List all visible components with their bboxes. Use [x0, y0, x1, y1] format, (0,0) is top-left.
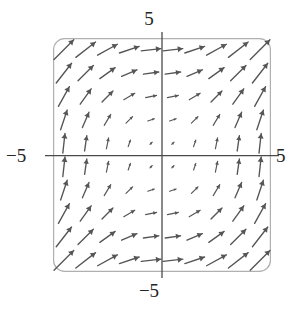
field-arrow [84, 136, 89, 151]
field-arrow [100, 231, 115, 242]
field-arrow [185, 256, 205, 264]
field-arrow [61, 133, 67, 153]
field-arrow [250, 40, 270, 60]
field-arrow [146, 211, 157, 215]
field-arrow [128, 163, 131, 170]
field-arrow [61, 180, 69, 200]
field-arrow-head [156, 257, 161, 263]
field-arrow [194, 163, 197, 170]
axis-label-bottom: −5 [0, 281, 298, 300]
field-arrow-head [86, 89, 91, 95]
field-arrow [215, 161, 219, 172]
field-arrow [102, 91, 113, 102]
field-arrow [163, 46, 183, 52]
field-arrow [231, 65, 246, 80]
field-arrow [54, 40, 74, 60]
field-arrow [187, 233, 202, 240]
field-arrow [56, 63, 71, 83]
field-arrow [76, 253, 96, 268]
field-arrow [207, 44, 227, 55]
field-arrow [194, 140, 197, 147]
field-arrow [143, 234, 158, 239]
field-arrow [187, 69, 202, 76]
field-arrow [228, 253, 248, 268]
field-arrow [122, 233, 137, 240]
vector-field-figure: 5 −5 −5 5 [0, 0, 298, 311]
field-arrow [257, 110, 265, 130]
field-arrow [233, 89, 244, 104]
field-arrow [104, 185, 111, 196]
field-arrow [172, 142, 174, 144]
field-arrow [82, 112, 89, 127]
field-arrow [80, 89, 91, 104]
field-arrow [82, 182, 89, 197]
field-arrow [148, 188, 155, 191]
field-arrow [106, 138, 110, 149]
field-arrow-head [238, 206, 243, 212]
field-arrow [189, 93, 200, 100]
field-arrow-head [177, 257, 182, 263]
field-arrow-head [61, 157, 67, 162]
field-arrow [148, 118, 155, 121]
field-arrow [167, 94, 178, 98]
field-arrow [209, 231, 224, 242]
field-arrow [165, 70, 180, 75]
field-arrow [61, 157, 67, 177]
field-arrow [119, 256, 139, 264]
field-arrow [235, 112, 242, 127]
field-arrow [146, 94, 157, 98]
field-arrow [257, 180, 265, 200]
field-arrow [255, 87, 266, 107]
field-arrow [100, 68, 115, 79]
field-arrow [54, 250, 74, 270]
field-arrow [163, 257, 183, 263]
field-arrow-head [61, 133, 67, 138]
field-arrow [211, 91, 222, 102]
field-arrow [143, 70, 158, 75]
field-arrow [78, 229, 93, 244]
field-arrow [84, 159, 89, 174]
field-arrow-head [109, 231, 115, 236]
field-arrow [170, 118, 177, 121]
field-arrow [128, 140, 131, 147]
field-arrow [141, 257, 161, 263]
field-arrow [78, 65, 93, 80]
field-arrow [258, 157, 264, 177]
field-arrow [76, 42, 96, 57]
field-arrow [213, 185, 220, 196]
field-arrow-head [86, 206, 91, 212]
field-arrow [104, 114, 111, 125]
field-arrow-head [238, 89, 243, 95]
axis-label-left: −5 [6, 146, 26, 165]
field-arrow [209, 68, 224, 79]
field-arrow-head [109, 68, 115, 73]
field-arrow [119, 45, 139, 53]
field-arrow [235, 182, 242, 197]
field-arrow [124, 210, 135, 217]
field-arrow [250, 250, 270, 270]
field-arrow [58, 87, 69, 107]
field-arrow [211, 208, 222, 219]
field-arrow [80, 206, 91, 221]
vector-field-canvas [53, 38, 271, 272]
field-arrow [228, 42, 248, 57]
field-arrow [58, 204, 69, 224]
field-arrow-head [156, 46, 161, 52]
field-arrow [207, 255, 227, 266]
field-arrow [122, 69, 137, 76]
field-arrow [141, 46, 161, 52]
field-arrow-head [218, 68, 224, 73]
field-arrow [98, 255, 118, 266]
field-arrow [106, 161, 110, 172]
field-arrow [233, 206, 244, 221]
field-arrow [185, 45, 205, 53]
field-arrow [124, 93, 135, 100]
field-arrow [213, 114, 220, 125]
field-arrow [165, 234, 180, 239]
field-arrow [61, 110, 69, 130]
field-arrow [258, 133, 264, 153]
field-arrow [56, 227, 71, 247]
field-arrow-head [258, 133, 264, 138]
field-arrow [167, 211, 178, 215]
field-arrow [172, 166, 174, 168]
